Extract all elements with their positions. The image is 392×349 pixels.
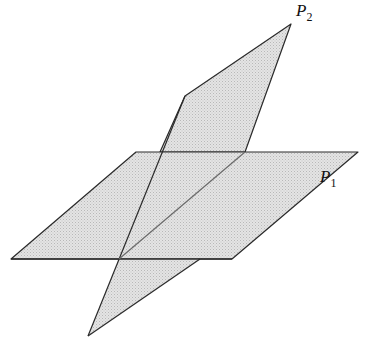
plane-p2-upper — [160, 24, 291, 152]
planes-diagram: P2 P1 — [0, 0, 392, 349]
plane-p1 — [11, 152, 358, 259]
diagram-canvas: P2 P1 — [0, 0, 392, 349]
label-p2: P2 — [295, 1, 312, 24]
